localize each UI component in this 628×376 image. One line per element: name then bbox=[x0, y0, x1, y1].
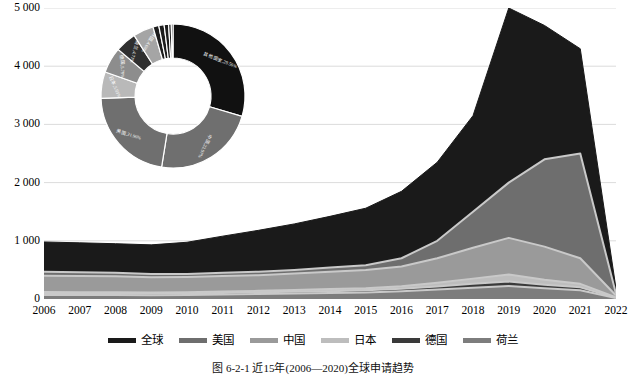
legend-swatch-icon bbox=[321, 338, 349, 343]
x-axis-tick-label: 2019 bbox=[497, 303, 520, 317]
legend-item-荷兰[interactable]: 荷兰 bbox=[463, 334, 518, 347]
y-axis-tick-label: 1 000 bbox=[14, 235, 40, 247]
y-axis-tick-label: 4 000 bbox=[14, 60, 40, 72]
x-axis-tick-label: 2010 bbox=[176, 303, 199, 317]
y-axis-tick-label: 5 000 bbox=[14, 2, 40, 14]
legend-label: 日本 bbox=[354, 334, 376, 347]
y-axis-tick-label: 2 000 bbox=[14, 177, 40, 189]
legend-swatch-icon bbox=[179, 338, 207, 343]
donut-slice-s5[interactable] bbox=[171, 24, 173, 58]
legend-item-全球[interactable]: 全球 bbox=[108, 334, 163, 347]
x-axis-tick-label: 2006 bbox=[33, 303, 56, 317]
donut-slice-中国[interactable] bbox=[162, 107, 242, 168]
legend-swatch-icon bbox=[250, 338, 278, 343]
x-axis-tick-label: 2022 bbox=[605, 303, 628, 317]
legend-label: 美国 bbox=[212, 334, 234, 347]
legend-label: 荷兰 bbox=[496, 334, 518, 347]
donut-slice-其他国家[interactable] bbox=[173, 24, 245, 116]
y-axis-labels: 01 0002 0003 0004 0005 000 bbox=[0, 0, 40, 299]
x-axis-tick-label: 2017 bbox=[426, 303, 449, 317]
figure-caption: 图 6-2-1 近15年(2006—2020)全球申请趋势 bbox=[0, 362, 626, 375]
x-axis-tick-label: 2011 bbox=[211, 303, 234, 317]
donut-chart-svg: 其他国家,29.56%中国,22.97%美国,21.96%日本,5.93%德国,… bbox=[98, 10, 248, 182]
chart-legend: 全球美国中国日本德国荷兰 bbox=[0, 334, 626, 347]
y-axis-tick-label: 3 000 bbox=[14, 118, 40, 130]
x-axis-tick-label: 2008 bbox=[104, 303, 127, 317]
x-axis-tick-label: 2012 bbox=[247, 303, 270, 317]
x-axis-tick-label: 2013 bbox=[283, 303, 306, 317]
x-axis-tick-label: 2016 bbox=[390, 303, 413, 317]
legend-label: 全球 bbox=[141, 334, 163, 347]
x-axis-tick-label: 2018 bbox=[462, 303, 485, 317]
donut-slice-美国[interactable] bbox=[101, 97, 167, 167]
legend-item-中国[interactable]: 中国 bbox=[250, 334, 305, 347]
x-axis-tick-label: 2020 bbox=[533, 303, 556, 317]
legend-item-日本[interactable]: 日本 bbox=[321, 334, 376, 347]
legend-swatch-icon bbox=[392, 338, 420, 343]
legend-label: 德国 bbox=[425, 334, 447, 347]
x-axis-tick-label: 2015 bbox=[354, 303, 377, 317]
donut-chart: 其他国家,29.56%中国,22.97%美国,21.96%日本,5.93%德国,… bbox=[98, 10, 248, 182]
legend-label: 中国 bbox=[283, 334, 305, 347]
x-axis-tick-label: 2021 bbox=[569, 303, 592, 317]
legend-item-德国[interactable]: 德国 bbox=[392, 334, 447, 347]
legend-item-美国[interactable]: 美国 bbox=[179, 334, 234, 347]
x-axis-tick-label: 2007 bbox=[68, 303, 91, 317]
x-axis-tick-label: 2009 bbox=[140, 303, 163, 317]
x-axis-labels: 2006200720082009201020112012201320142015… bbox=[44, 303, 616, 319]
legend-swatch-icon bbox=[108, 338, 136, 343]
x-axis-tick-label: 2014 bbox=[319, 303, 342, 317]
legend-swatch-icon bbox=[463, 338, 491, 343]
